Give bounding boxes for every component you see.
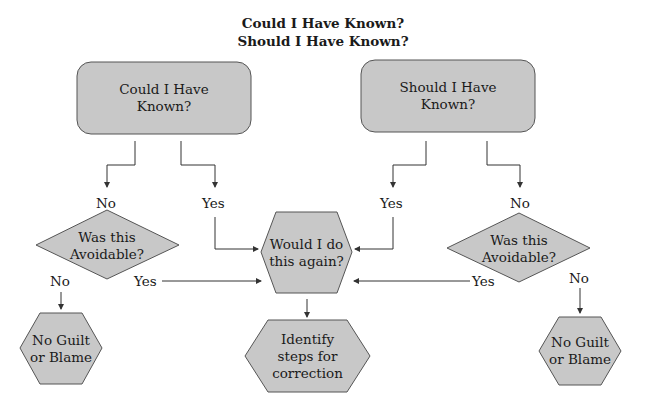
label-could-no: No [96,195,116,211]
could-box-text: Could I Have Known? [77,62,251,134]
label-right-avoid-yes: Yes [472,273,495,289]
connector-should-yes [393,141,426,187]
label-left-avoid-yes: Yes [134,273,157,289]
connector-should-yes-to-again [355,217,393,249]
left-diamond-text: Was this Avoidable? [50,228,164,264]
should-box-line1: Should I Have [399,79,496,96]
identify-hex-line2: steps for [278,348,338,365]
connector-could-no [107,141,135,187]
left-diamond-line2: Avoidable? [70,246,144,263]
identify-hex-text: Identify steps for correction [245,320,370,392]
should-box-line2: Known? [421,96,475,113]
right-diamond-line1: Was this [490,232,547,249]
could-box-line2: Known? [137,98,191,115]
again-hex-line2: this again? [269,253,344,270]
label-should-no: No [510,195,530,211]
label-right-avoid-no: No [569,270,589,286]
identify-hex-line1: Identify [281,331,334,348]
left-guilt-hex-text: No Guilt or Blame [20,313,102,384]
label-should-yes: Yes [380,195,403,211]
again-hex-text: Would I do this again? [261,212,352,293]
left-diamond-line1: Was this [78,229,135,246]
again-hex-line1: Would I do [270,236,343,253]
connector-could-yes-to-again [215,217,258,249]
should-box-text: Should I Have Known? [361,60,535,132]
right-diamond-text: Was this Avoidable? [462,231,576,267]
right-guilt-hex-text: No Guilt or Blame [539,317,621,385]
connector-could-yes [181,141,215,187]
identify-hex-line3: correction [272,365,343,382]
label-left-avoid-no: No [50,273,70,289]
right-guilt-line2: or Blame [549,351,611,368]
label-could-yes: Yes [202,195,225,211]
left-guilt-line2: or Blame [30,349,92,366]
right-diamond-line2: Avoidable? [482,249,556,266]
left-guilt-line1: No Guilt [32,332,90,349]
right-guilt-line1: No Guilt [551,334,609,351]
could-box-line1: Could I Have [119,81,208,98]
connector-should-no [487,141,520,187]
